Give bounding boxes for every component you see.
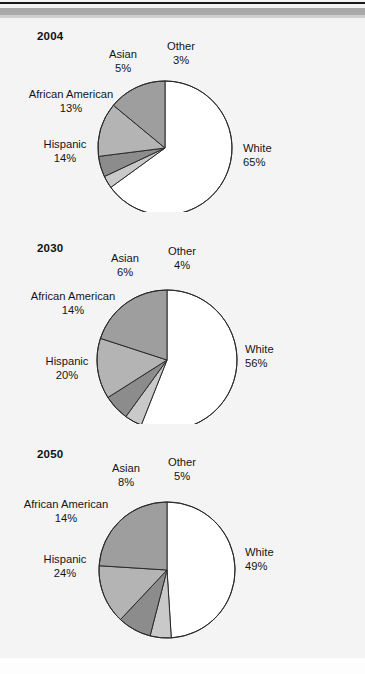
callout-african-american-2050: African American 14%: [13, 498, 119, 525]
pie-panel-2050: 2050 Other 5% Asian 8% African American …: [0, 424, 365, 674]
callout-other-2050: Other 5%: [153, 456, 211, 483]
callout-hispanic-name-2050: Hispanic: [44, 553, 87, 565]
callout-white-2050: White 49%: [245, 546, 305, 573]
callout-african-american-name-2050: African American: [24, 498, 109, 510]
callout-african-american-pct-2050: 14%: [13, 512, 119, 526]
callout-hispanic-pct-2050: 24%: [34, 567, 96, 581]
callout-white-name-2050: White: [245, 546, 274, 558]
callout-asian-name-2050: Asian: [112, 462, 140, 474]
callout-asian-pct-2050: 8%: [100, 476, 152, 490]
pie-slice-white: [167, 502, 235, 638]
callout-white-pct-2050: 49%: [245, 560, 305, 574]
callout-other-name-2050: Other: [168, 456, 196, 468]
callout-asian-2050: Asian 8%: [100, 462, 152, 489]
callout-other-pct-2050: 5%: [153, 470, 211, 484]
figure-canvas: 2004 Other 3% Asian 5% African American …: [0, 0, 365, 674]
callout-hispanic-2050: Hispanic 24%: [34, 553, 96, 580]
bottom-margin: [0, 658, 365, 674]
